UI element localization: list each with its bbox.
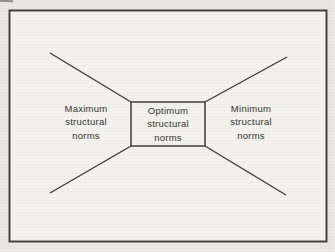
left-label-line-3: norms: [38, 129, 134, 142]
right-label-line-3: norms: [204, 129, 298, 142]
right-label-line-1: Minimum: [204, 102, 298, 115]
right-label-line-2: structural: [204, 115, 298, 128]
left-label-maximum-structural-norms: Maximum structural norms: [38, 102, 134, 142]
center-label-line-2: structural: [131, 117, 205, 130]
left-label-line-1: Maximum: [38, 102, 134, 115]
center-box-label-optimum-structural-norms: Optimum structural norms: [131, 102, 205, 146]
center-label-line-3: norms: [131, 131, 205, 144]
center-label-line-1: Optimum: [131, 104, 205, 117]
left-label-line-2: structural: [38, 115, 134, 128]
right-label-minimum-structural-norms: Minimum structural norms: [204, 102, 298, 142]
scanned-figure: Maximum structural norms Optimum structu…: [0, 0, 335, 252]
